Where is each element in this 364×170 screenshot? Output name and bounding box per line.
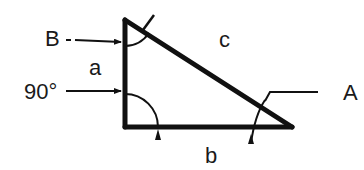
label-b-vertex: B [45, 26, 60, 51]
angle-a-leader [265, 92, 318, 101]
label-a-vertex: A [343, 80, 358, 105]
right-angle-arc [125, 94, 158, 127]
label-side-b: b [205, 143, 217, 168]
label-side-c: c [219, 27, 230, 52]
side-c-line [125, 20, 292, 127]
angle-b-arrow [75, 40, 121, 42]
label-side-a: a [89, 55, 102, 80]
right-triangle-diagram: B a 90° c b A [0, 0, 364, 170]
right-angle-tick [155, 129, 161, 140]
triangle [125, 20, 292, 127]
label-right-angle: 90° [24, 79, 57, 104]
angle-b-tick [143, 15, 154, 30]
